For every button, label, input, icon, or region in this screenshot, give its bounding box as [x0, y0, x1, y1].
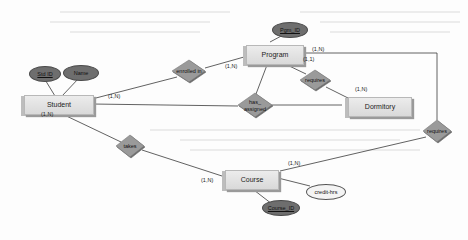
attribute-course-id[interactable]: Course_ID: [262, 200, 300, 216]
cardinality-course-requires: (1,N): [288, 160, 300, 166]
edge-requires-dormitory: [326, 87, 348, 98]
attribute-name[interactable]: Name: [63, 65, 99, 81]
entity-dormitory[interactable]: Dormitory: [348, 97, 412, 117]
attribute-credit-hrs[interactable]: credit-hrs: [306, 184, 346, 200]
edge-requires-course: [280, 137, 426, 171]
edge-student-takes: [58, 112, 121, 142]
cardinality-program-enrolled: (1,N): [225, 63, 237, 69]
edge-takes-course: [142, 150, 222, 176]
enrolled-in-label: enrolled in: [176, 68, 201, 74]
cardinality-student-enrolled: (1,N): [108, 93, 120, 99]
edge-program-hasassigned: [256, 65, 267, 94]
takes-label: takes: [123, 143, 136, 149]
cardinality-course-takes: (1,N): [201, 177, 213, 183]
has-assigned-label-line1: has_: [249, 99, 261, 105]
relationship-has-assigned[interactable]: [238, 93, 272, 117]
cardinality-program-requires-course: (1,N): [312, 46, 324, 52]
attribute-std-id[interactable]: Std ID: [29, 66, 61, 82]
cardinality-program-requires-dorm: (1,1): [303, 56, 314, 62]
entity-course[interactable]: Course: [225, 170, 279, 190]
cardinality-dormitory-requires: (1,N): [355, 86, 367, 92]
attribute-pgm-id[interactable]: Pgm_ID: [272, 22, 308, 38]
entity-student[interactable]: Student: [24, 95, 94, 115]
requires-dormitory-label: requires: [305, 77, 325, 83]
cardinality-student-takes: (1,N): [41, 111, 53, 117]
entity-program[interactable]: Program: [246, 45, 304, 65]
edge-student-enrolled: [92, 77, 177, 99]
edge-course-credithrs: [278, 178, 310, 186]
requires-course-label: requires: [427, 128, 447, 134]
has-assigned-label-line2: assigned: [244, 106, 266, 112]
edge-student-hasassigned: [92, 104, 238, 106]
